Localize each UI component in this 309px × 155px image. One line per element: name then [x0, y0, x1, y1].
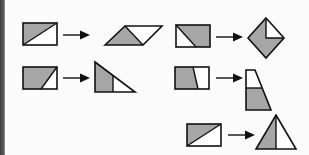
source-rectangle	[23, 23, 57, 45]
transformation-2	[176, 18, 284, 58]
result-trapezoid	[246, 70, 271, 110]
arrow-right-icon	[63, 31, 90, 40]
result-diamond	[248, 18, 284, 58]
source-rectangle	[175, 67, 209, 89]
arrow-right-icon	[216, 74, 243, 83]
transformation-5	[187, 115, 296, 149]
transformation-4	[175, 67, 271, 110]
arrow-right-icon	[228, 131, 255, 140]
result-parallelogram	[105, 26, 162, 45]
arrow-right-icon	[63, 74, 90, 83]
result-right-triangle	[95, 62, 135, 92]
arrow-right-icon	[216, 33, 243, 42]
shape-dissection-diagram	[0, 0, 309, 155]
result-isosceles-triangle	[256, 115, 296, 149]
source-rectangle	[23, 67, 57, 89]
transformation-1	[23, 23, 162, 45]
source-rectangle	[176, 25, 210, 47]
source-rectangle	[187, 124, 221, 146]
transformation-3	[23, 62, 135, 92]
